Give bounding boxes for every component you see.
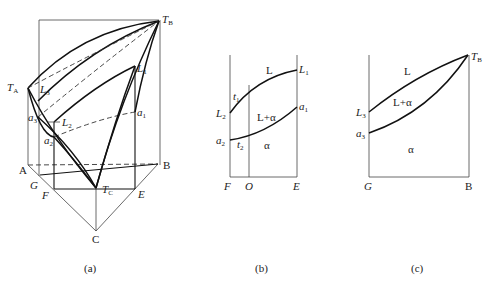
- label-L1: L1: [298, 63, 309, 77]
- label-TC: TC: [102, 183, 113, 197]
- label-B: B: [163, 159, 170, 171]
- label-L2: L2: [61, 116, 72, 130]
- panel-b-section-FE: L2 L1 a2 a1 t1 t2 L L+α α F O E (b): [215, 55, 309, 275]
- caption-c: (c): [411, 262, 424, 275]
- liquidus-curve-L2-L1: [230, 70, 297, 113]
- liquidus-curve-L3-TB: [369, 55, 468, 112]
- label-O: O: [245, 180, 253, 192]
- label-a1: a1: [137, 106, 147, 120]
- region-label-alpha: α: [408, 143, 414, 155]
- label-L3: L3: [355, 106, 366, 120]
- label-a2: a2: [216, 134, 226, 148]
- label-L3: L3: [39, 83, 50, 97]
- panel-a-prism: TA TB TC L1 L2 L3 a1 a2 a3 A B C G F E (…: [7, 13, 173, 275]
- region-label-L: L: [404, 65, 411, 77]
- caption-b: (b): [255, 262, 268, 275]
- label-C: C: [92, 233, 99, 245]
- label-TA: TA: [7, 81, 18, 95]
- region-label-L: L: [266, 64, 273, 76]
- caption-a: (a): [84, 262, 97, 275]
- label-t2: t2: [237, 138, 244, 152]
- label-a1: a1: [299, 100, 309, 114]
- panel-c-section-GB: TB L3 a3 L L+α α G B (c): [355, 50, 482, 275]
- label-G: G: [30, 179, 38, 191]
- region-label-L-alpha: L+α: [257, 111, 276, 123]
- base-edge-BC: [96, 164, 158, 231]
- label-E: E: [292, 180, 300, 192]
- liquidus-curve-TB-TC: [96, 21, 159, 188]
- label-L2: L2: [215, 107, 226, 121]
- phase-diagram-figure: TA TB TC L1 L2 L3 a1 a2 a3 A B C G F E (…: [0, 0, 493, 290]
- solidus-curve-a3-TB: [369, 55, 468, 133]
- base-edge-AB-hidden: [28, 164, 158, 165]
- label-F: F: [223, 180, 231, 192]
- label-F: F: [41, 189, 49, 201]
- label-B: B: [465, 180, 472, 192]
- label-A: A: [19, 164, 27, 176]
- section-line-GB-base: [40, 164, 158, 175]
- label-t1: t1: [233, 90, 240, 104]
- label-TB: TB: [162, 13, 173, 27]
- label-G: G: [364, 180, 372, 192]
- label-E: E: [137, 188, 145, 200]
- region-label-L-alpha: L+α: [393, 96, 412, 108]
- label-TB: TB: [471, 50, 482, 64]
- label-a3: a3: [356, 127, 366, 141]
- region-label-alpha: α: [264, 139, 270, 151]
